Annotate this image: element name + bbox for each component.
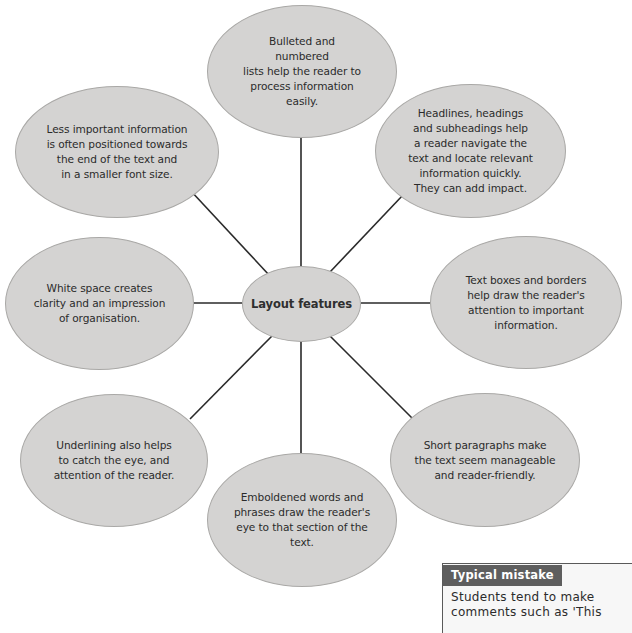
node-short-paragraphs: Short paragraphs make the text seem mana… [390,393,580,527]
node-underlining: Underlining also helps to catch the eye,… [20,394,208,527]
center-label: Layout features [251,297,352,312]
node-text: Emboldened words and phrases draw the re… [234,490,370,550]
connector-short-paragraphs [330,336,412,418]
node-less-important: Less important information is often posi… [15,86,219,218]
callout-body: Students tend to make comments such as '… [443,586,632,624]
node-text: Text boxes and borders help draw the rea… [466,273,587,333]
connector-underlining [190,336,272,419]
connector-headlines [330,195,403,272]
node-text: Bulleted and numbered lists help the rea… [243,34,361,109]
callout-title: Typical mistake [443,565,562,586]
node-emboldened: Emboldened words and phrases draw the re… [207,453,397,587]
node-center-layout-features: Layout features [242,266,361,342]
node-text-boxes: Text boxes and borders help draw the rea… [430,236,622,369]
node-white-space: White space creates clarity and an impre… [5,237,194,370]
node-text: Short paragraphs make the text seem mana… [415,438,556,483]
node-text: Less important information is often posi… [47,122,188,182]
node-bulleted-lists: Bulleted and numbered lists help the rea… [207,5,397,138]
connector-less-important [190,190,270,276]
node-text: Headlines, headings and subheadings help… [408,106,533,196]
node-text: White space creates clarity and an impre… [34,281,166,326]
node-headlines: Headlines, headings and subheadings help… [375,84,566,218]
node-text: Underlining also helps to catch the eye,… [54,438,175,483]
typical-mistake-callout: Typical mistake Students tend to make co… [442,563,632,633]
